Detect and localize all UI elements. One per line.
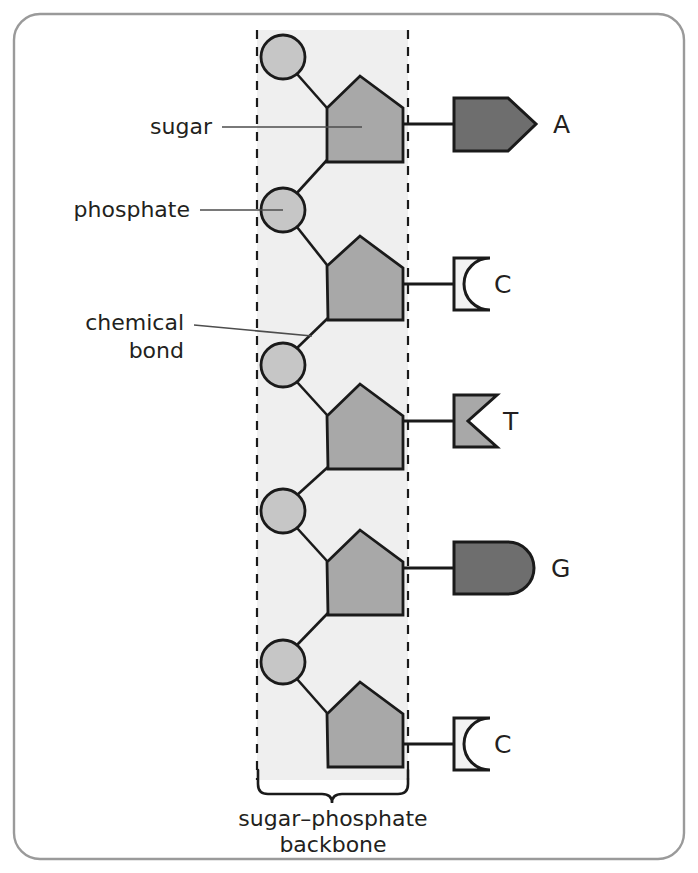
base-letter-cytosine-1: C (494, 270, 511, 299)
phosphate-circle-3 (261, 343, 305, 387)
base-letter-guanine: G (551, 554, 570, 583)
phosphate-circle-4 (261, 489, 305, 533)
figure-canvas: A C T G C sugar phosphate chemical bond … (0, 0, 698, 873)
base-letter-cytosine-2: C (494, 730, 511, 759)
base-letter-thymine: T (502, 407, 519, 436)
label-chemical-bond-line1: chemical (85, 310, 184, 335)
label-phosphate: phosphate (74, 197, 190, 222)
phosphate-circle-1 (261, 35, 305, 79)
label-chemical-bond-line2: bond (129, 338, 184, 363)
label-sugar: sugar (150, 114, 213, 139)
phosphate-circle-5 (261, 640, 305, 684)
label-backbone-line2: backbone (279, 832, 386, 857)
label-backbone-line1: sugar–phosphate (238, 806, 427, 831)
base-shape-guanine (454, 542, 534, 594)
base-letter-adenine: A (553, 110, 570, 139)
